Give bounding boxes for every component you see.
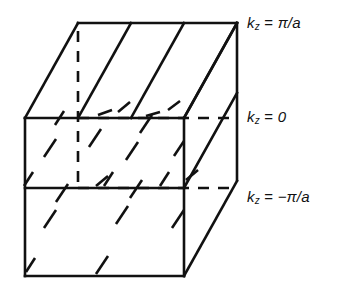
label-kz-minus-pi-value: −π/a bbox=[278, 188, 310, 205]
right-face-ruling-top bbox=[184, 23, 237, 118]
label-kz-pi-symbol: k bbox=[247, 14, 255, 31]
hatch-dash bbox=[98, 110, 112, 115]
hatch-dash bbox=[89, 129, 101, 147]
upper-slab-hatching bbox=[24, 111, 184, 186]
label-kz-zero-subscript: z bbox=[255, 115, 260, 126]
cube-drawing bbox=[0, 0, 351, 288]
label-kz-minus-pi-symbol: k bbox=[247, 188, 255, 205]
solid-edges bbox=[25, 23, 237, 276]
label-kz-pi-over-a: kz = π/a bbox=[247, 14, 301, 32]
hatch-dash bbox=[26, 258, 35, 272]
top-left-edge bbox=[25, 23, 78, 118]
hatch-dash bbox=[44, 210, 56, 228]
hatch-dash bbox=[146, 112, 160, 116]
brillouin-zone-figure: kz = π/a kz = 0 kz = −π/a bbox=[0, 0, 351, 288]
hatch-dash bbox=[116, 206, 128, 224]
hatch-dash bbox=[44, 139, 56, 157]
label-kz-zero-symbol: k bbox=[247, 108, 255, 125]
label-kz-pi-value: π/a bbox=[278, 14, 301, 31]
hatch-dash bbox=[118, 102, 130, 112]
hatch-dash bbox=[126, 142, 138, 160]
hatch-dash bbox=[96, 256, 108, 274]
label-kz-pi-subscript: z bbox=[255, 21, 260, 32]
hidden-edges bbox=[78, 31, 237, 188]
hatch-dash bbox=[168, 101, 180, 110]
label-kz-zero-operator: = bbox=[264, 108, 273, 125]
label-kz-minus-pi-over-a: kz = −π/a bbox=[247, 188, 310, 206]
hatch-dash bbox=[172, 210, 184, 228]
hatch-dash bbox=[174, 141, 184, 156]
label-kz-minus-pi-operator: = bbox=[264, 188, 273, 205]
label-kz-pi-operator: = bbox=[264, 14, 273, 31]
label-kz-minus-pi-subscript: z bbox=[255, 195, 260, 206]
lower-slab-hatching bbox=[26, 180, 184, 274]
label-kz-zero: kz = 0 bbox=[247, 108, 286, 126]
right-face-ruling-bottom bbox=[184, 181, 237, 276]
top-face-ruling-1 bbox=[78, 23, 131, 118]
hatch-dash bbox=[160, 172, 169, 186]
label-kz-zero-value: 0 bbox=[278, 108, 287, 125]
